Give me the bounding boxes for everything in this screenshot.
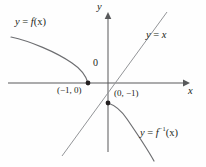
label-finv-eq: = [145,127,156,138]
label-identity-x: x [162,29,167,40]
label-identity-eq: = [151,29,162,40]
point-marker-minus1-0 [86,81,91,86]
y-axis-label: y [97,2,102,13]
origin-label: 0 [93,58,98,68]
x-axis [8,80,190,87]
label-finv-arg: (x) [166,127,178,138]
function-inverse-graph-figure: y = f(x) y = x y = f−1(x) 0 y x (−1, 0) … [0,0,206,167]
curve-f-of-x [11,37,88,83]
point-label-minus1-0: (−1, 0) [57,86,82,95]
point-marker-0-minus1 [106,101,111,106]
label-y-equals-x: y = x [146,30,167,41]
label-y-equals-f-of-x: y = f(x) [15,17,46,28]
x-axis-label: x [188,86,193,97]
label-f-eq: = [20,16,31,27]
y-axis-arrowhead [105,12,112,19]
label-y-equals-f-inverse-of-x: y = f−1(x) [140,126,178,138]
y-axis [105,12,112,152]
label-finv-exponent: −1 [159,125,166,132]
label-f-arg: (x) [34,16,46,27]
point-label-0-minus1: (0, −1) [114,89,139,98]
